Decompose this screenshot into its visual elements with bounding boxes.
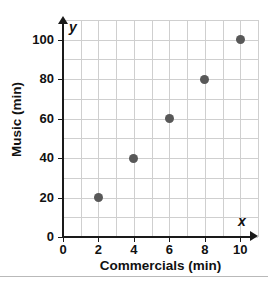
x-axis-arrow-icon [250, 231, 258, 241]
y-axis-line [62, 24, 64, 238]
x-axis-line [63, 236, 252, 238]
gridline-vertical [152, 20, 153, 237]
gridline-vertical [187, 20, 188, 237]
gridline-vertical [223, 20, 224, 237]
data-point [200, 75, 209, 84]
data-point [129, 154, 138, 163]
gridline-horizontal [63, 217, 258, 218]
gridline-horizontal [63, 20, 258, 21]
x-axis-tick-label: 0 [46, 243, 80, 257]
gridline-vertical [240, 20, 241, 237]
gridline-horizontal [63, 119, 258, 120]
gridline-horizontal [63, 99, 258, 100]
gridline-vertical [134, 20, 135, 237]
y-axis-tick-label: 0 [14, 230, 54, 244]
y-axis-tick [58, 79, 63, 80]
gridline-horizontal [63, 40, 258, 41]
gridline-vertical [205, 20, 206, 237]
data-point [236, 35, 245, 44]
gridline-horizontal [63, 178, 258, 179]
x-axis-title: Commercials (min) [63, 258, 258, 273]
y-axis-tick [58, 119, 63, 120]
gridline-vertical [81, 20, 82, 237]
y-axis-tick [58, 198, 63, 199]
gridlines [63, 20, 258, 237]
plot-area [63, 20, 258, 237]
x-axis-symbol-label: x [238, 213, 246, 229]
x-axis-tick-label: 10 [223, 243, 257, 257]
gridline-vertical [98, 20, 99, 237]
page-divider-rule [0, 276, 268, 277]
gridline-vertical [169, 20, 170, 237]
gridline-vertical [116, 20, 117, 237]
x-axis-tick-label: 8 [188, 243, 222, 257]
y-axis-tick [58, 158, 63, 159]
y-axis-tick-label: 20 [14, 191, 54, 205]
gridline-horizontal [63, 59, 258, 60]
y-axis-tick [58, 237, 63, 238]
data-point [165, 114, 174, 123]
gridline-horizontal [63, 138, 258, 139]
scatter-plot-figure: 0246810 020406080100 y x Commercials (mi… [0, 0, 268, 283]
gridline-horizontal [63, 158, 258, 159]
x-axis-tick-label: 4 [117, 243, 151, 257]
y-axis-symbol-label: y [69, 19, 77, 35]
y-axis-title: Music (min) [9, 60, 24, 180]
y-axis-arrow-icon [58, 16, 68, 24]
gridline-vertical [258, 20, 259, 237]
x-axis-tick-label: 2 [81, 243, 115, 257]
data-point [94, 193, 103, 202]
y-axis-tick-label: 100 [14, 33, 54, 47]
x-axis-tick-label: 6 [152, 243, 186, 257]
gridline-horizontal [63, 79, 258, 80]
y-axis-tick [58, 40, 63, 41]
gridline-horizontal [63, 198, 258, 199]
